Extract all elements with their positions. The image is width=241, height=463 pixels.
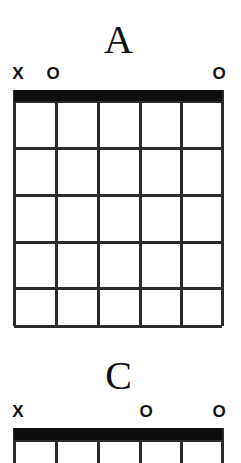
string-marker-a-muted-0: X	[9, 64, 27, 83]
string-line-a-2	[97, 90, 100, 326]
fret-line-a-2	[14, 194, 222, 197]
string-line-a-3	[139, 90, 142, 326]
string-marker-c-open-3: O	[137, 402, 155, 421]
chord-title-a-text: A	[104, 20, 133, 60]
chord-title-c: C	[0, 356, 241, 396]
chord-title-c-text: C	[105, 356, 132, 396]
string-markers-c: XOO	[0, 402, 241, 422]
nut-bar-a	[14, 90, 222, 101]
nut-bar-c	[14, 428, 222, 440]
fret-line-a-1	[14, 147, 222, 150]
string-marker-a-open-5: O	[210, 64, 228, 83]
fret-line-a-4	[14, 287, 222, 290]
string-markers-a: XOO	[0, 64, 241, 84]
string-marker-a-open-1: O	[44, 64, 62, 83]
chord-chart-page: A XOO C XOO	[0, 0, 241, 463]
string-marker-c-muted-0: X	[9, 402, 27, 421]
fret-line-a-5	[14, 325, 222, 328]
chord-title-a: A	[0, 20, 241, 60]
string-line-a-1	[55, 90, 58, 326]
string-line-a-5	[221, 90, 224, 326]
fret-line-a-3	[14, 241, 222, 244]
string-line-a-0	[13, 90, 16, 326]
fretboard-grid-a	[14, 90, 222, 326]
fretboard-grid-c	[14, 428, 222, 463]
string-marker-c-open-5: O	[210, 402, 228, 421]
string-line-a-4	[180, 90, 183, 326]
